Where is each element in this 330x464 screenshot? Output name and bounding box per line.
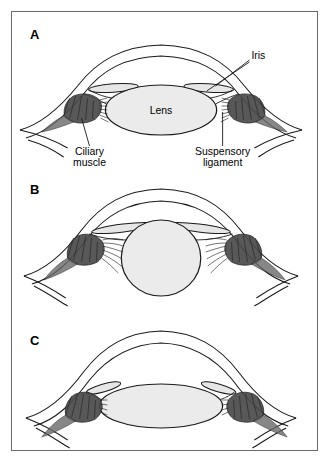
panel-a-drawing: A Iris Lens Ciliary muscle Suspensory li… bbox=[12, 12, 317, 172]
panel-c-drawing: C bbox=[12, 312, 317, 451]
ciliary-muscle-right bbox=[227, 392, 264, 422]
suspensory-ligament-left bbox=[101, 239, 123, 274]
panel-a: A Iris Lens Ciliary muscle Suspensory li… bbox=[12, 12, 317, 172]
iris-root-right bbox=[193, 234, 233, 240]
figure-frame: A Iris Lens Ciliary muscle Suspensory li… bbox=[11, 11, 318, 451]
panel-c: C bbox=[12, 312, 317, 451]
label-suspensory-ligament-line1: Suspensory bbox=[195, 146, 251, 157]
panel-b-letter: B bbox=[30, 182, 39, 197]
label-ciliary-muscle-line1: Ciliary bbox=[75, 146, 105, 157]
label-suspensory-ligament-line2: ligament bbox=[203, 157, 242, 168]
ciliary-muscle-left bbox=[67, 234, 104, 265]
ciliary-process-right-tail bbox=[251, 258, 285, 280]
panel-a-letter: A bbox=[30, 27, 39, 42]
label-ciliary-muscle-line2: muscle bbox=[73, 157, 106, 168]
suspensory-ligament-right bbox=[206, 239, 228, 274]
panel-b-drawing: B bbox=[12, 172, 317, 312]
caption-strip bbox=[11, 452, 318, 464]
panel-b: B bbox=[12, 172, 317, 312]
ciliary-process-left-tail bbox=[44, 258, 78, 280]
ciliary-muscle-left bbox=[65, 392, 102, 422]
ciliary-muscle-right bbox=[225, 234, 262, 265]
lens-shape bbox=[121, 220, 200, 296]
label-lens: Lens bbox=[150, 105, 173, 116]
lens-shape bbox=[99, 384, 222, 428]
panel-c-letter: C bbox=[30, 333, 39, 348]
label-iris: Iris bbox=[251, 50, 265, 61]
